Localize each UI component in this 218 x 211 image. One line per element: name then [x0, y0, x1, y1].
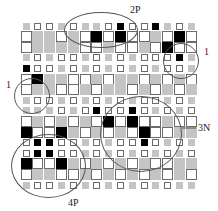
leader-lines — [0, 0, 218, 211]
